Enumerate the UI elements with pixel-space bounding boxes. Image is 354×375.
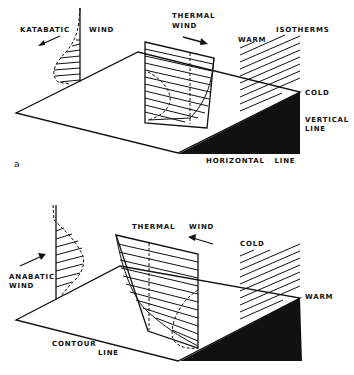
thermal-wind-profile-b (116, 235, 198, 348)
thermal-wind-arrow-b (193, 238, 213, 244)
katabatic-wind-profile (54, 8, 80, 84)
vertical-line-label-2: LINE (305, 125, 326, 133)
anabatic-arrowhead-icon (38, 253, 46, 260)
contour-label: CONTOUR (52, 340, 96, 348)
katabatic-wind-label: WIND (89, 26, 114, 34)
warm-label-a: WARM (238, 36, 266, 44)
thermal-wind-label-a-1: THERMAL (172, 12, 215, 20)
anabatic-wind-profile (53, 205, 84, 299)
anabatic-wind-label: WIND (9, 282, 34, 290)
katabatic-label: KATABATIC (20, 26, 70, 34)
cold-label-b: COLD (240, 240, 265, 248)
thermal-wind-arrowhead-icon (200, 38, 208, 45)
katabatic-arrowhead-icon (38, 40, 45, 46)
panel-label-a: a (14, 159, 20, 169)
thermal-wind-arrowhead-b-icon (188, 234, 196, 241)
cold-label-a: COLD (305, 89, 330, 97)
thermal-wind-profile-a (145, 42, 214, 128)
warm-label-b: WARM (305, 293, 333, 301)
vertical-line-label-1: VERTICAL (305, 116, 349, 124)
anabatic-arrow (20, 256, 42, 266)
thermal-wind-label-b-1: THERMAL (132, 223, 175, 231)
horizontal-line-label: HORIZONTAL LINE (206, 157, 295, 165)
contour-line-label: LINE (98, 349, 119, 357)
slope-wedge (178, 92, 300, 154)
anabatic-label: ANABATIC (9, 273, 55, 281)
thermal-wind-label-a-2: WIND (172, 22, 197, 30)
isotherms-label: ISOTHERMS (276, 26, 330, 34)
thermal-wind-label-b-2: WIND (189, 223, 214, 231)
